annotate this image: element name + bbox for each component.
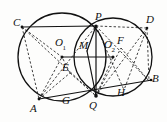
segment-FB [121, 48, 149, 81]
point-D [146, 27, 149, 30]
point-label-C: C [13, 17, 20, 28]
dashed-segments-group [22, 26, 149, 99]
point-label-E: E [62, 62, 69, 73]
segment-MP [87, 26, 96, 51]
point-label-F: F [117, 35, 124, 46]
point-markers-group [21, 24, 153, 100]
point-label-H: H [117, 87, 125, 98]
point-P [94, 24, 97, 27]
point-O1 [61, 56, 64, 59]
point-C [21, 26, 24, 29]
segment-CP [22, 26, 96, 27]
segment-QO2 [96, 57, 113, 96]
point-label-B: B [152, 73, 159, 84]
geometry-canvas [0, 0, 167, 122]
point-label-O2: O2 [104, 39, 115, 53]
point-O2 [112, 56, 115, 59]
point-label-P: P [95, 11, 102, 22]
point-label-M: M [79, 40, 88, 51]
point-label-D: D [146, 14, 154, 25]
point-label-G: G [62, 95, 70, 106]
point-label-Q: Q [89, 100, 97, 111]
point-A [38, 98, 41, 101]
point-label-O1: O1 [55, 37, 66, 51]
segment-AO1 [39, 57, 62, 99]
point-label-A: A [30, 103, 37, 114]
geometry-figure: C P D O1 M O2 F E B H G Q A [0, 0, 167, 122]
point-Q [94, 94, 98, 98]
